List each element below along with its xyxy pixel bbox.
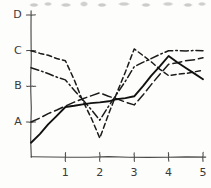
line-chart: DCBA 12345 <box>0 0 211 188</box>
x-axis-tick-label-1: 1 <box>58 167 72 178</box>
series-line-series-3 <box>31 58 203 122</box>
chart-plot-area <box>0 0 211 188</box>
series-line-series-4 <box>31 56 203 143</box>
series-group <box>31 49 203 143</box>
x-axis-tick-label-5: 5 <box>196 167 210 178</box>
x-axis-tick-label-3: 3 <box>127 167 141 178</box>
y-axis-tick-label-c: C <box>8 45 22 56</box>
axes-group <box>26 11 205 162</box>
x-axis-tick-label-2: 2 <box>93 167 107 178</box>
y-axis-tick-label-d: D <box>8 9 22 20</box>
y-axis-tick-label-b: B <box>8 80 22 91</box>
y-axis-tick-label-a: A <box>8 116 22 127</box>
x-axis-tick-label-4: 4 <box>162 167 176 178</box>
